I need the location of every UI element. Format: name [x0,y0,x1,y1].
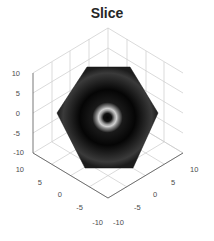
z-tick: -5 [13,129,20,138]
x-tick: -10 [113,218,124,227]
x-tick: 10 [190,165,198,174]
x-tick: -5 [134,203,141,212]
z-tick: 10 [12,69,20,78]
slice-surface [57,67,158,168]
plot-3d-axes: 10 5 0 -5 -10 10 5 0 -5 -10 10 5 0 -5 -1… [0,0,214,241]
y-tick: 0 [58,190,62,199]
z-tick: 5 [16,89,20,98]
y-tick: 5 [38,178,42,187]
y-tick: -5 [76,203,83,212]
z-tick: 0 [16,109,20,118]
y-axis-ticks: 10 5 0 -5 -10 [16,165,103,227]
x-axis-ticks: 10 5 0 -5 -10 [113,165,198,227]
z-axis-ticks: 10 5 0 -5 -10 [12,69,24,157]
z-tick: -10 [13,148,24,157]
x-tick: 0 [153,190,157,199]
y-tick: -10 [92,218,103,227]
y-tick: 10 [16,165,24,174]
x-tick: 5 [171,178,175,187]
